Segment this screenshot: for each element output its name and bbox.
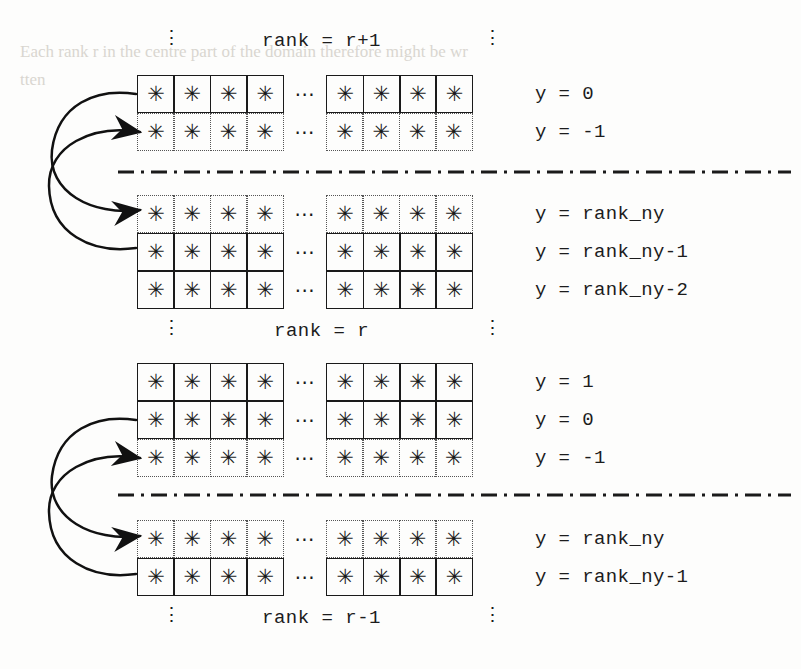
- interior-cell: ✳: [173, 233, 211, 271]
- cell-group: ✳✳✳✳: [326, 195, 473, 233]
- cell-star-icon: ✳: [256, 84, 274, 105]
- interior-cell: ✳: [326, 363, 364, 401]
- cell-star-icon: ✳: [446, 372, 464, 393]
- ghost-text-line-2: tten: [20, 70, 46, 90]
- interior-cell: ✳: [399, 233, 437, 271]
- interior-cell: ✳: [210, 233, 248, 271]
- cell-star-icon: ✳: [446, 410, 464, 431]
- cell-star-icon: ✳: [184, 529, 202, 550]
- interior-cell: ✳: [137, 75, 175, 113]
- halo-cell: ✳: [362, 113, 400, 151]
- interior-cell: ✳: [137, 558, 175, 596]
- arrow-send-down-upper: [52, 93, 140, 211]
- interior-cell: ✳: [399, 363, 437, 401]
- halo-cell: ✳: [210, 113, 248, 151]
- rank-label-r-plus-1: rank = r+1: [262, 30, 381, 52]
- cell-star-icon: ✳: [184, 204, 202, 225]
- grid-row: ✳✳✳✳⋯✳✳✳✳: [137, 439, 473, 477]
- halo-cell: ✳: [210, 439, 248, 477]
- interior-cell: ✳: [173, 271, 211, 309]
- cell-star-icon: ✳: [220, 567, 238, 588]
- interior-cell: ✳: [137, 233, 175, 271]
- halo-cell: ✳: [326, 195, 364, 233]
- cell-star-icon: ✳: [184, 448, 202, 469]
- y-label: y = rank_ny-1: [535, 558, 688, 596]
- cell-star-icon: ✳: [409, 204, 427, 225]
- rank-label-r-minus-1: rank = r-1: [262, 607, 381, 629]
- grid-row: ✳✳✳✳⋯✳✳✳✳: [137, 233, 473, 271]
- cell-star-icon: ✳: [256, 448, 274, 469]
- y-label: y = rank_ny-1: [535, 233, 688, 271]
- cell-star-icon: ✳: [147, 448, 165, 469]
- cell-star-icon: ✳: [409, 567, 427, 588]
- cell-group: ✳✳✳✳: [326, 363, 473, 401]
- cell-star-icon: ✳: [445, 204, 463, 225]
- cell-star-icon: ✳: [409, 410, 427, 431]
- interior-cell: ✳: [326, 75, 364, 113]
- y-label: y = 1: [535, 363, 594, 401]
- halo-cell: ✳: [435, 113, 473, 151]
- cell-star-icon: ✳: [184, 242, 202, 263]
- interior-cell: ✳: [399, 75, 437, 113]
- grid-row: ✳✳✳✳⋯✳✳✳✳: [137, 75, 473, 113]
- interior-cell: ✳: [363, 558, 401, 596]
- cell-star-icon: ✳: [147, 242, 165, 263]
- horizontal-ellipsis: ⋯: [284, 558, 326, 596]
- interior-cell: ✳: [363, 271, 401, 309]
- horizontal-ellipsis: ⋯: [284, 401, 326, 439]
- cell-group: ✳✳✳✳: [137, 195, 284, 233]
- cell-star-icon: ✳: [373, 84, 391, 105]
- cell-star-icon: ✳: [184, 280, 202, 301]
- horizontal-ellipsis: ⋯: [284, 271, 326, 309]
- cell-star-icon: ✳: [336, 372, 354, 393]
- cell-star-icon: ✳: [336, 410, 354, 431]
- cell-star-icon: ✳: [409, 372, 427, 393]
- rank-separator-top: [118, 170, 791, 174]
- cell-star-icon: ✳: [409, 448, 427, 469]
- cell-group: ✳✳✳✳: [137, 439, 284, 477]
- halo-cell: ✳: [137, 195, 175, 233]
- cell-star-icon: ✳: [409, 242, 427, 263]
- cell-star-icon: ✳: [220, 410, 238, 431]
- halo-cell: ✳: [210, 520, 248, 558]
- cell-group: ✳✳✳✳: [137, 520, 284, 558]
- cell-star-icon: ✳: [373, 372, 391, 393]
- interior-cell: ✳: [246, 558, 284, 596]
- halo-cell: ✳: [399, 195, 437, 233]
- cell-star-icon: ✳: [409, 84, 427, 105]
- vdots-right-rank-r-plus-1: ⋮: [483, 30, 495, 49]
- cell-star-icon: ✳: [256, 529, 274, 550]
- halo-cell: ✳: [173, 113, 211, 151]
- horizontal-ellipsis: ⋯: [284, 520, 326, 558]
- cell-star-icon: ✳: [147, 122, 165, 143]
- interior-cell: ✳: [399, 558, 437, 596]
- interior-cell: ✳: [246, 75, 284, 113]
- cell-star-icon: ✳: [220, 242, 238, 263]
- cell-star-icon: ✳: [147, 280, 165, 301]
- cell-star-icon: ✳: [445, 122, 463, 143]
- halo-cell: ✳: [362, 439, 400, 477]
- horizontal-ellipsis: ⋯: [284, 113, 326, 151]
- cell-group: ✳✳✳✳: [326, 439, 473, 477]
- interior-cell: ✳: [399, 401, 437, 439]
- cell-star-icon: ✳: [409, 122, 427, 143]
- vdots-left-rank-r-minus-1: ⋮: [162, 607, 174, 626]
- interior-cell: ✳: [173, 75, 211, 113]
- cell-group: ✳✳✳✳: [137, 363, 284, 401]
- halo-cell: ✳: [246, 520, 284, 558]
- y-label: y = -1: [535, 113, 606, 151]
- interior-cell: ✳: [210, 271, 248, 309]
- cell-star-icon: ✳: [147, 529, 165, 550]
- vdots-left-rank-r-plus-1: ⋮: [162, 30, 174, 49]
- cell-star-icon: ✳: [446, 280, 464, 301]
- interior-cell: ✳: [137, 401, 175, 439]
- grid-row: ✳✳✳✳⋯✳✳✳✳: [137, 401, 473, 439]
- halo-cell: ✳: [399, 439, 437, 477]
- y-label: y = rank_ny: [535, 195, 665, 233]
- cell-star-icon: ✳: [336, 448, 354, 469]
- halo-exchange-diagram: Each rank r in the centre part of the do…: [0, 0, 801, 669]
- vdots-left-rank-r: ⋮: [162, 320, 174, 339]
- interior-cell: ✳: [210, 558, 248, 596]
- halo-cell: ✳: [246, 195, 284, 233]
- cell-star-icon: ✳: [336, 204, 354, 225]
